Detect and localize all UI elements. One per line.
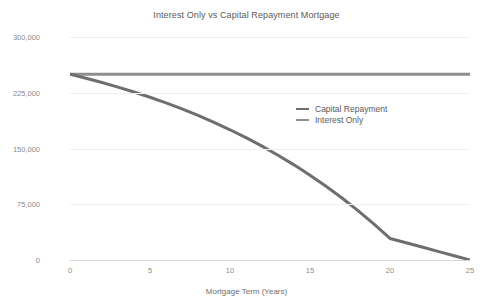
x-axis-title: Mortgage Term (Years) — [0, 287, 493, 296]
legend-label-interest-only: Interest Only — [315, 115, 363, 125]
gridline-y — [70, 260, 470, 261]
x-tick-label: 0 — [50, 266, 90, 275]
y-tick-label: 0 — [0, 256, 40, 265]
y-tick-label: 225,000 — [0, 89, 40, 98]
legend-swatch-interest-only — [296, 119, 309, 121]
y-tick-label: 75,000 — [0, 200, 40, 209]
series-line — [70, 74, 470, 260]
y-tick-label: 150,000 — [0, 145, 40, 154]
plot-area: 075,000150,000225,000300,000 0510152025 — [70, 37, 470, 260]
legend-item-capital-repayment: Capital Repayment — [296, 103, 387, 114]
chart-legend: Capital Repayment Interest Only — [296, 103, 387, 125]
chart-title: Interest Only vs Capital Repayment Mortg… — [0, 10, 493, 20]
x-tick-label: 10 — [210, 266, 250, 275]
x-tick-label: 15 — [290, 266, 330, 275]
mortgage-chart: Interest Only vs Capital Repayment Mortg… — [0, 0, 493, 307]
gridline-y — [70, 93, 470, 94]
gridline-y — [70, 37, 470, 38]
legend-label-capital-repayment: Capital Repayment — [315, 104, 387, 114]
x-tick-label: 20 — [370, 266, 410, 275]
gridline-y — [70, 204, 470, 205]
gridline-y — [70, 149, 470, 150]
x-tick-label: 25 — [450, 266, 490, 275]
legend-item-interest-only: Interest Only — [296, 114, 387, 125]
x-tick-label: 5 — [130, 266, 170, 275]
y-tick-label: 300,000 — [0, 33, 40, 42]
legend-swatch-capital-repayment — [296, 108, 309, 110]
